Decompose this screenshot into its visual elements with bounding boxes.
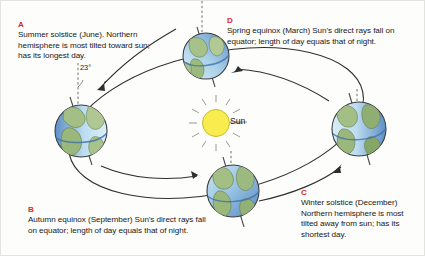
sun-label: Sun: [230, 116, 245, 126]
caption-text-b: Autumn equinox (September) Sun's direct …: [28, 215, 206, 235]
axial-tilt-label: 23°: [80, 63, 91, 72]
caption-key-d: D: [227, 16, 233, 25]
caption-text-d: Spring equinox (March) Sun's direct rays…: [227, 26, 394, 46]
sun-disc: [203, 110, 230, 137]
seasons-diagram-figure: A Summer solstice (June). Northern hemis…: [0, 0, 425, 256]
globe-autumn-equinox: [206, 151, 260, 227]
caption-text-c: Winter solstice (December) Northern hemi…: [301, 198, 404, 239]
caption-key-c: C: [301, 188, 307, 197]
caption-summer-solstice: A Summer solstice (June). Northern hemis…: [18, 9, 158, 62]
tilt-angle-marker: [78, 80, 83, 87]
caption-key-b: B: [28, 205, 34, 214]
caption-text-a: Summer solstice (June). Northern hemisph…: [18, 30, 150, 60]
globe-summer-solstice: [55, 63, 107, 165]
arrowhead-to-winter: [332, 164, 342, 173]
caption-winter-solstice: C Winter solstice (December) Northern he…: [301, 177, 421, 241]
globe-winter-solstice: [332, 89, 386, 165]
caption-spring-equinox: D Spring equinox (March) Sun's direct ra…: [227, 5, 423, 47]
arrowhead-to-autumn: [191, 171, 202, 179]
caption-autumn-equinox: B Autumn equinox (September) Sun's direc…: [28, 194, 214, 236]
globe-spring-equinox: [182, 1, 229, 87]
caption-key-a: A: [18, 20, 24, 29]
